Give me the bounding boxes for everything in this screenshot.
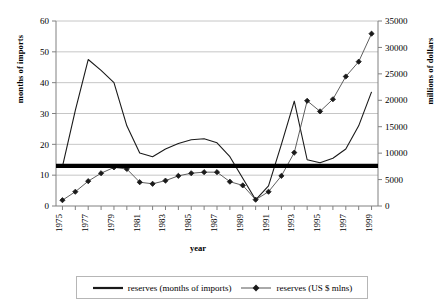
x-tick-label: 1981: [132, 214, 142, 232]
legend-swatch-line-icon: [92, 283, 124, 293]
y-tick-label-right: 35000: [385, 16, 408, 26]
chart-screenshot: 0102030405060050001000015000200002500030…: [0, 0, 439, 307]
y-tick-label-right: 30000: [385, 43, 408, 53]
y-tick-label-left: 10: [40, 170, 50, 180]
legend-label-reserves-usd: reserves (US $ mlns): [276, 283, 352, 293]
y-tick-label-right: 25000: [385, 69, 408, 79]
legend-label-reserves-months: reserves (months of imports): [128, 283, 232, 293]
x-tick-label: 1995: [312, 214, 322, 233]
x-tick-label: 1983: [157, 214, 167, 233]
x-tick-label: 1989: [235, 214, 245, 233]
y-tick-label-left: 60: [40, 16, 50, 26]
legend-item-reserves-usd: reserves (US $ mlns): [240, 283, 352, 293]
x-tick-label: 1997: [338, 214, 348, 233]
x-tick-label: 1991: [261, 214, 271, 232]
y-tick-label-left: 30: [40, 109, 50, 119]
x-tick-label: 1985: [183, 214, 193, 233]
y-tick-label-right: 10000: [385, 148, 408, 158]
y-axis-left-title: months of imports: [15, 9, 25, 129]
x-tick-label: 1979: [106, 214, 116, 233]
legend-item-reserves-months: reserves (months of imports): [92, 283, 232, 293]
y-tick-label-left: 20: [40, 140, 50, 150]
x-tick-label: 1999: [364, 214, 374, 233]
y-tick-label-left: 40: [40, 78, 50, 88]
y-tick-label-right: 20000: [385, 95, 408, 105]
y-tick-label-left: 50: [40, 47, 50, 57]
y-axis-right-title: millions of dollars: [425, 11, 435, 131]
y-tick-label-right: 5000: [385, 175, 404, 185]
x-tick-label: 1977: [80, 214, 90, 233]
chart-svg: 0102030405060050001000015000200002500030…: [0, 0, 439, 260]
x-axis-title: year: [190, 243, 206, 253]
legend-swatch-line-diamond-icon: [240, 283, 272, 293]
y-tick-label-right: 0: [385, 201, 390, 211]
chart-plot-area: 0102030405060050001000015000200002500030…: [0, 0, 439, 260]
x-tick-label: 1975: [54, 214, 64, 233]
y-tick-label-left: 0: [45, 201, 50, 211]
chart-legend: reserves (months of imports) reserves (U…: [76, 276, 368, 299]
x-tick-label: 1987: [209, 214, 219, 233]
y-tick-label-right: 15000: [385, 122, 408, 132]
x-tick-label: 1993: [286, 214, 296, 233]
